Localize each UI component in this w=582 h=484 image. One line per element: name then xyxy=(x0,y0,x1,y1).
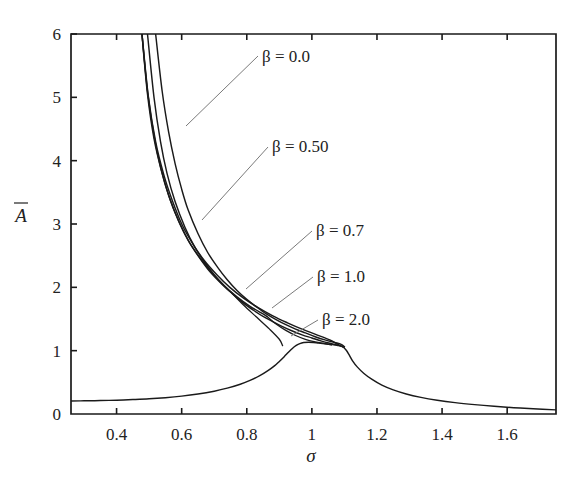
annotation-label-3: β = 1.0 xyxy=(317,267,365,286)
svg-text:A: A xyxy=(13,205,27,226)
x-tick-label: 1.2 xyxy=(366,425,387,444)
x-tick-label: 0.4 xyxy=(106,425,128,444)
annotation-label-2: β = 0.7 xyxy=(316,221,364,240)
y-tick-label: 0 xyxy=(53,405,62,424)
chart-background xyxy=(0,0,582,484)
figure-container: 0.40.60.811.21.41.6 0123456 β = 0.0β = 0… xyxy=(0,0,582,484)
y-tick-label: 1 xyxy=(53,342,62,361)
frequency-response-chart: 0.40.60.811.21.41.6 0123456 β = 0.0β = 0… xyxy=(0,0,582,484)
annotation-label-4: β = 2.0 xyxy=(322,310,370,329)
x-tick-label: 1.6 xyxy=(497,425,518,444)
annotation-label-1: β = 0.50 xyxy=(272,137,329,156)
y-tick-label: 6 xyxy=(53,25,62,44)
y-tick-label: 4 xyxy=(53,152,62,171)
y-axis-label: A xyxy=(13,203,28,226)
y-tick-label: 3 xyxy=(53,215,62,234)
x-tick-label: 1.4 xyxy=(431,425,453,444)
y-tick-label: 2 xyxy=(53,278,62,297)
y-tick-label: 5 xyxy=(53,88,62,107)
x-tick-label: 0.8 xyxy=(236,425,257,444)
x-axis-label: σ xyxy=(306,445,316,466)
annotation-label-0: β = 0.0 xyxy=(262,47,310,66)
x-tick-label: 1 xyxy=(308,425,317,444)
x-tick-label: 0.6 xyxy=(171,425,192,444)
